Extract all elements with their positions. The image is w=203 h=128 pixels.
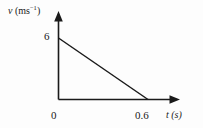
- y-axis-label: v (ms−1): [8, 6, 40, 16]
- x-axis-unit: (s): [169, 109, 182, 120]
- x-axis-label: t (s): [166, 110, 182, 120]
- y-axis-unit-exponent: −1: [30, 4, 37, 11]
- velocity-data-line: [59, 38, 149, 100]
- x-axis-arrowhead-icon: [170, 95, 181, 103]
- x-axis-tick-label-0-6: 0.6: [135, 110, 149, 121]
- y-axis-tick-label-6: 6: [44, 31, 50, 42]
- velocity-time-graph-figure: v (ms−1) t (s) 6 0 0.6: [0, 0, 203, 128]
- y-axis-unit-open: (ms: [12, 5, 30, 16]
- x-axis-tick-label-0: 0: [51, 110, 57, 121]
- y-axis-unit-close: ): [37, 5, 40, 16]
- y-axis-arrowhead-icon: [54, 11, 63, 22]
